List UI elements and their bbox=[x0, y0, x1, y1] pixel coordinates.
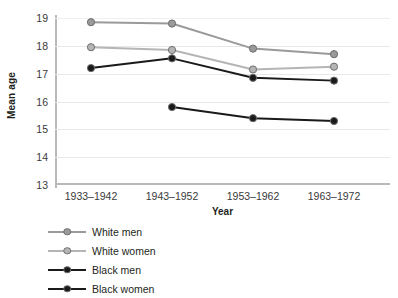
legend-label: White men bbox=[92, 226, 142, 238]
legend-label: White women bbox=[92, 245, 156, 257]
series-line bbox=[91, 47, 334, 69]
data-point-marker bbox=[168, 103, 175, 110]
y-axis-tick-label: 18 bbox=[36, 40, 48, 52]
legend-dot bbox=[63, 228, 71, 236]
data-point-marker bbox=[330, 77, 337, 84]
y-axis-tick-label: 13 bbox=[36, 179, 48, 191]
data-point-marker bbox=[168, 55, 175, 62]
data-point-marker bbox=[249, 66, 256, 73]
y-axis-title: Mean age bbox=[2, 0, 22, 190]
legend-item[interactable]: White men bbox=[48, 222, 308, 241]
data-point-marker bbox=[249, 45, 256, 52]
y-axis-tick-label: 17 bbox=[36, 68, 48, 80]
y-axis-tick-label: 19 bbox=[36, 12, 48, 24]
legend-marker-icon bbox=[48, 283, 86, 295]
x-axis-tick-labels: 1933–19421943–19521953–19621963–1972 bbox=[55, 190, 390, 206]
legend-dot bbox=[63, 285, 71, 293]
y-axis-tick-label: 16 bbox=[36, 96, 48, 108]
series-line bbox=[91, 58, 334, 80]
data-point-marker bbox=[330, 117, 337, 124]
x-axis-tick-label: 1953–1962 bbox=[227, 190, 280, 202]
legend-item[interactable]: Black women bbox=[48, 279, 308, 298]
x-axis-tick-label: 1943–1952 bbox=[146, 190, 199, 202]
legend-dot bbox=[63, 266, 71, 274]
legend-label: Black men bbox=[92, 264, 141, 276]
legend-dot bbox=[63, 247, 71, 255]
data-point-marker bbox=[168, 20, 175, 27]
line-chart-figure: Mean age 13141516171819 1933–19421943–19… bbox=[0, 0, 398, 298]
legend-marker-icon bbox=[48, 226, 86, 238]
data-point-marker bbox=[330, 63, 337, 70]
data-point-marker bbox=[87, 65, 94, 72]
y-axis-tick-label: 14 bbox=[36, 151, 48, 163]
legend-marker-icon bbox=[48, 264, 86, 276]
y-axis-tick-label: 15 bbox=[36, 123, 48, 135]
y-axis-title-text: Mean age bbox=[7, 71, 18, 118]
series-layer bbox=[55, 18, 390, 185]
chart-legend: White menWhite womenBlack menBlack women bbox=[48, 222, 308, 298]
x-axis-tick-label: 1933–1942 bbox=[65, 190, 118, 202]
data-point-marker bbox=[168, 46, 175, 53]
data-point-marker bbox=[249, 115, 256, 122]
x-axis-title: Year bbox=[55, 206, 390, 217]
legend-marker-icon bbox=[48, 245, 86, 257]
legend-label: Black women bbox=[92, 283, 154, 295]
data-point-marker bbox=[87, 19, 94, 26]
plot-area: 13141516171819 bbox=[55, 18, 390, 185]
legend-item[interactable]: White women bbox=[48, 241, 308, 260]
data-point-marker bbox=[330, 51, 337, 58]
data-point-marker bbox=[87, 44, 94, 51]
legend-item[interactable]: Black men bbox=[48, 260, 308, 279]
data-point-marker bbox=[249, 74, 256, 81]
x-axis-tick-label: 1963–1972 bbox=[308, 190, 361, 202]
